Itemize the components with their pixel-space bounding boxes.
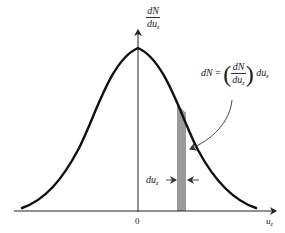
distribution-diagram [0, 0, 285, 233]
formula-lhs: dN [201, 67, 213, 78]
y-label-den-sub: z [157, 24, 159, 30]
y-label-numerator: dN [146, 6, 160, 16]
formula-equals: = [215, 67, 221, 78]
formula-rhs-sub: z [266, 73, 268, 79]
right-paren: ) [246, 61, 254, 87]
formula-frac-den-base: du [232, 74, 242, 85]
strip-width-label: duz [146, 175, 158, 186]
formula-frac-den-sub: z [242, 80, 244, 86]
y-label-denominator: duz [146, 19, 160, 30]
y-label-den-base: du [147, 18, 157, 29]
strip-width-base: du [146, 174, 156, 185]
formula-frac-den: duz [231, 75, 245, 86]
formula-frac-num: dN [232, 62, 246, 72]
y-axis-label: dN duz [146, 6, 160, 30]
left-paren: ( [223, 61, 231, 87]
formula: dN = ( dN duz ) duz [201, 62, 269, 86]
x-label-sub: z [271, 221, 273, 227]
pointer-arrow [190, 100, 232, 149]
formula-rhs: du [256, 67, 266, 78]
origin-label: 0 [135, 217, 140, 226]
strip-width-sub: z [156, 180, 158, 186]
x-axis-label: uz [266, 217, 273, 227]
